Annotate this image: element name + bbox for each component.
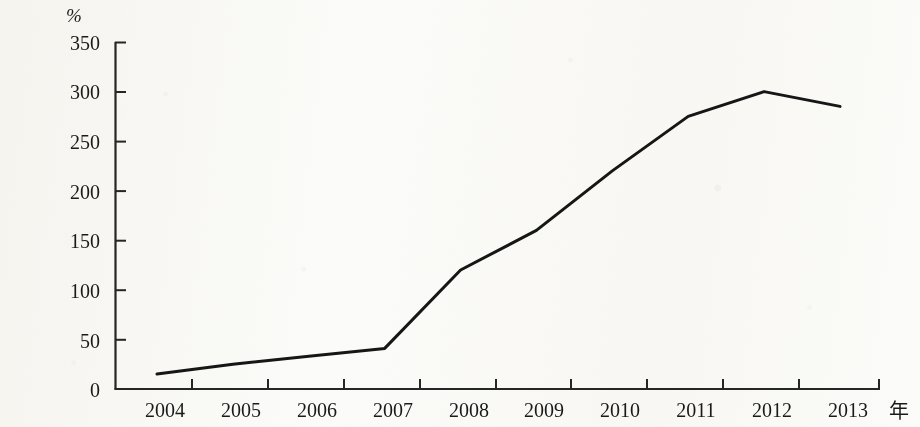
x-axis-unit-label: 年: [889, 401, 909, 421]
line-chart-figure: % 350 300 250 200 150 100 50 0: [0, 0, 920, 427]
x-tick-label-2013: 2013: [803, 400, 893, 420]
chart-plot-area: [0, 0, 920, 427]
x-axis-ticks: [192, 379, 879, 389]
data-series-line: [157, 92, 840, 375]
y-axis-ticks: [115, 43, 126, 340]
